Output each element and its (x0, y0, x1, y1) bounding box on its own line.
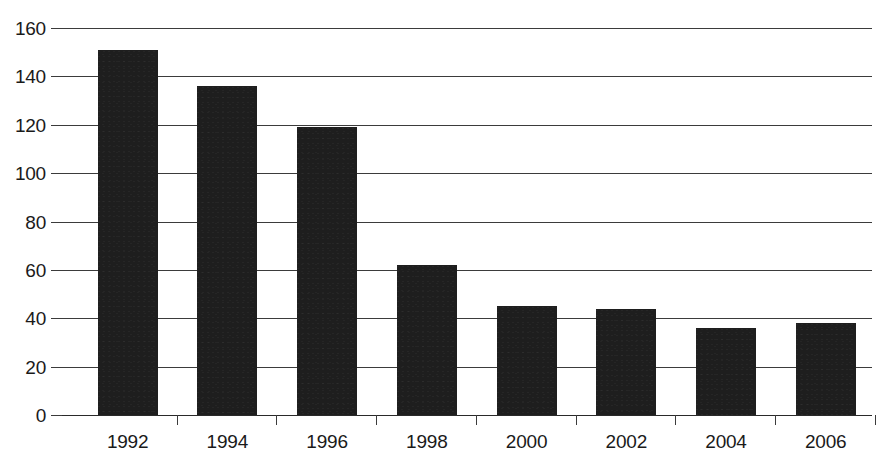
gridline-160 (62, 28, 872, 29)
y-axis-tick-mark (51, 28, 62, 29)
y-axis-ticks (0, 28, 62, 415)
x-axis-tick-mark (376, 415, 377, 425)
x-axis-tick-label: 2000 (482, 432, 572, 451)
bar (297, 127, 357, 415)
gridline-140 (62, 76, 872, 77)
y-axis-tick-mark (51, 318, 62, 319)
bar (796, 323, 856, 415)
x-axis-tick-label: 1994 (182, 432, 272, 451)
x-axis-tick-label: 1998 (382, 432, 472, 451)
y-axis-tick-mark (51, 173, 62, 174)
x-axis-tick-mark (675, 415, 676, 425)
x-axis-tick-label: 1992 (83, 432, 173, 451)
x-axis-ticks (62, 415, 872, 427)
y-axis-tick-mark (51, 367, 62, 368)
x-axis-tick-mark (476, 415, 477, 425)
x-axis-labels: 19921994199619982000200220042006 (62, 432, 872, 462)
bar-chart: 020406080100120140160 199219941996199820… (0, 0, 887, 470)
gridline-40 (62, 318, 872, 319)
y-axis-tick-mark (51, 76, 62, 77)
y-axis-tick-mark (51, 125, 62, 126)
bar (397, 265, 457, 415)
x-axis-tick-mark (775, 415, 776, 425)
gridline-60 (62, 270, 872, 271)
gridline-120 (62, 125, 872, 126)
x-axis-tick-label: 2004 (681, 432, 771, 451)
x-axis-tick-mark (875, 415, 876, 425)
x-axis-tick-mark (276, 415, 277, 425)
gridline-100 (62, 173, 872, 174)
y-axis-tick-mark (51, 222, 62, 223)
bar (596, 309, 656, 415)
x-axis-tick-label: 2002 (581, 432, 671, 451)
x-axis-tick-label: 1996 (282, 432, 372, 451)
x-axis-tick-mark (576, 415, 577, 425)
y-axis-tick-mark (51, 415, 62, 416)
bar (497, 306, 557, 415)
y-axis-tick-mark (51, 270, 62, 271)
plot-area (62, 28, 872, 415)
bar (197, 86, 257, 415)
x-axis-tick-mark (177, 415, 178, 425)
x-axis-tick-label: 2006 (781, 432, 871, 451)
bar (696, 328, 756, 415)
bar (98, 50, 158, 415)
gridline-80 (62, 222, 872, 223)
